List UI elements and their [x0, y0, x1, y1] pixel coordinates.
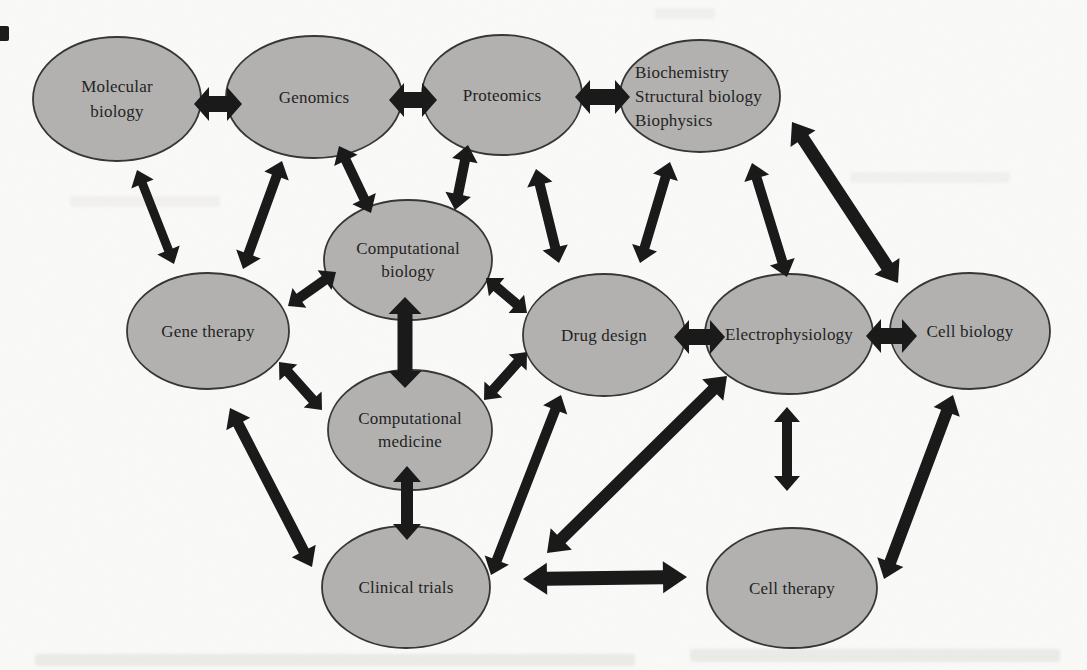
interdisciplinary-fields-network-diagram: MolecularbiologyGenomicsProteomicsBioche… [0, 0, 1087, 670]
scanned-figure-page: MolecularbiologyGenomicsProteomicsBioche… [0, 0, 1087, 670]
paper-grain-overlay [0, 0, 1087, 670]
